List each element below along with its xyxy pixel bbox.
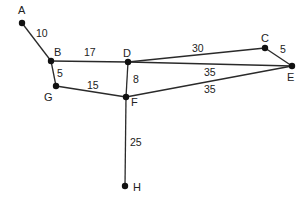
edge-weight-label: 35 [204, 83, 216, 95]
edge-weight-label: 10 [36, 27, 48, 39]
node-g [53, 83, 59, 89]
edges-layer [22, 23, 292, 186]
node-label: A [18, 4, 26, 16]
edge-f-h [125, 97, 126, 186]
edge-b-d [51, 61, 128, 62]
node-label: B [54, 46, 61, 58]
node-f [123, 94, 129, 100]
edge-weight-label: 15 [87, 79, 99, 91]
node-label: D [123, 47, 131, 59]
labels-layer: 10175158303535525ABGDFCEH [18, 4, 294, 193]
graph-diagram: 10175158303535525ABGDFCEH [0, 0, 299, 200]
node-label: C [261, 32, 269, 44]
node-h [122, 183, 128, 189]
node-label: F [131, 96, 138, 108]
edge-c-e [265, 48, 292, 66]
node-e [289, 63, 295, 69]
edge-weight-label: 25 [130, 136, 142, 148]
edge-weight-label: 35 [204, 66, 216, 78]
node-label: E [287, 71, 294, 83]
node-a [19, 20, 25, 26]
edge-weight-label: 5 [280, 43, 286, 55]
edge-weight-label: 5 [57, 67, 63, 79]
edge-d-f [126, 62, 128, 97]
edge-weight-label: 30 [192, 42, 204, 54]
node-d [125, 59, 131, 65]
node-c [262, 45, 268, 51]
node-label: G [44, 91, 53, 103]
edge-weight-label: 8 [133, 73, 139, 85]
edge-weight-label: 17 [84, 46, 96, 58]
edge-b-g [51, 61, 56, 86]
node-b [48, 58, 54, 64]
node-label: H [133, 181, 141, 193]
